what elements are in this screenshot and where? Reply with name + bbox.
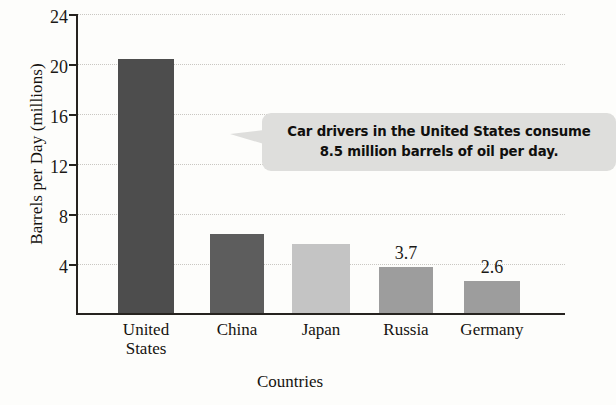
x-axis-title: Countries [0,372,580,392]
bar-united-states [118,59,174,313]
annotation-line-1: Car drivers in the United States consume [287,124,590,139]
y-tick-label-8: 8 [34,208,68,226]
bar-value-label-russia: 3.7 [376,244,436,262]
y-tick-label-24: 24 [34,8,68,26]
y-tick-label-4: 4 [34,258,68,276]
plot-area: 3.7 2.6 Car drivers in the United States… [76,14,565,314]
bar-china [210,234,264,313]
bar-russia [379,267,433,313]
bar-germany [464,281,520,314]
bar-value-label-germany: 2.6 [462,258,522,276]
y-tick-label-12: 12 [34,158,68,176]
x-tick-label-line1: United [123,320,169,339]
x-tick-label-line2: States [126,339,167,358]
x-tick-label-russia: Russia [356,320,456,339]
annotation-callout-text: Car drivers in the United States consume… [262,122,616,162]
annotation-callout-pointer [230,130,264,144]
x-tick-label-germany: Germany [442,320,542,339]
annotation-line-2: 8.5 million barrels of oil per day. [320,144,559,159]
annotation-callout: Car drivers in the United States consume… [262,113,616,171]
y-tick-label-20: 20 [34,58,68,76]
bar-japan [292,244,350,313]
x-tick-label-united-states: United States [96,320,196,358]
y-tick-label-16: 16 [34,108,68,126]
